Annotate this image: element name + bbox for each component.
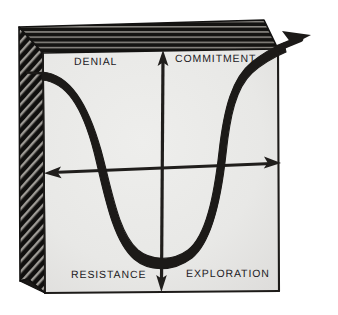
box-left-panel [19, 27, 45, 293]
box-top-panel [19, 20, 278, 53]
box-right-border [278, 49, 279, 291]
quadrant-label-commitment: COMMITMENT [175, 53, 256, 65]
quadrant-label-exploration: EXPLORATION [186, 268, 270, 280]
vertical-axis [162, 57, 164, 283]
quadrant-label-resistance: RESISTANCE [71, 269, 146, 281]
figure-canvas [0, 0, 338, 315]
change-curve-arrow-shaft [278, 39, 300, 48]
quadrant-label-denial: DENIAL [74, 56, 117, 68]
change-curve-left-stub [27, 73, 45, 74]
change-curve-figure: DENIAL COMMITMENT RESISTANCE EXPLORATION [0, 0, 338, 315]
